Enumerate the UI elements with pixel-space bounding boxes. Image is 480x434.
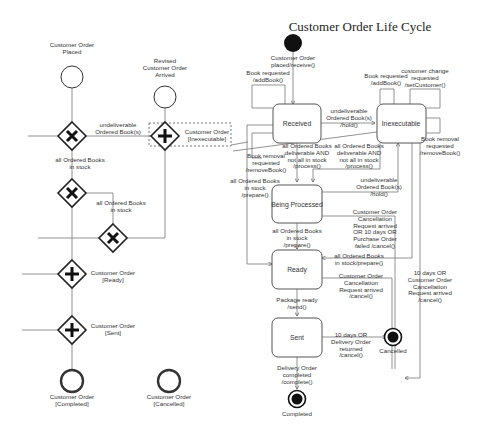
tlabel-proc-cancel: Customer OrderCancellationRequest arrive… — [353, 208, 398, 249]
transition-inexec-cancel — [405, 143, 420, 378]
state-label: Being Processed — [271, 201, 323, 209]
bpmn-process: Customer OrderPlaced RevisedCustomer Ord… — [22, 41, 248, 407]
final-label-completed: Completed — [282, 410, 312, 417]
start-event-placed[interactable] — [61, 66, 83, 88]
state-inexecutable[interactable]: Inexecutable — [377, 104, 426, 143]
state-being-processed[interactable]: Being Processed — [271, 185, 323, 223]
state-sent[interactable]: Sent — [272, 318, 322, 357]
tlabel-recv-remove: Book removalrequested/removeBook() — [246, 152, 287, 173]
label-in-stock-2: all Ordered Booksin stock — [96, 199, 146, 213]
tlabel-recv-to-inexec: undeliverableOrdered Book(s)/hold() — [326, 107, 372, 128]
tlabel-recv-addbook: Book requested/addBook() — [246, 69, 290, 83]
state-label: Inexecutable — [382, 120, 421, 127]
start-event-revised[interactable] — [154, 86, 176, 108]
label-in-stock-1: all Ordered Booksin stock — [55, 156, 105, 170]
label-placed: Customer OrderPlaced — [50, 41, 94, 55]
tlabel-inexec-addbook: Book requested/addBook() — [364, 72, 408, 86]
label-revised: RevisedCustomer OrderArrived — [143, 57, 187, 78]
tlabel-inexec-remove: Book removalrequested/removeBook() — [420, 135, 461, 156]
tlabel-sent-to-completed: Delivery Ordercompleted/complete() — [277, 364, 317, 385]
tlabel-inexec-setcust: customer changerequested/setCustomer() — [401, 67, 449, 88]
label-inexecutable: Customer Order[Inexecutable] — [185, 128, 229, 142]
label-completed: Customer Order[Completed] — [50, 393, 94, 407]
tlabel-inexec-to-proc: all Ordered Booksdeliverable ANDnot all … — [334, 142, 384, 169]
state-label: Ready — [287, 266, 307, 274]
state-received[interactable]: Received — [273, 104, 321, 143]
xor-gateway-2[interactable] — [58, 179, 86, 207]
xor-gateway-1[interactable] — [58, 122, 86, 150]
tlabel-proc-to-inexec: undeliverableOrdered Book(s)/hold() — [356, 176, 402, 197]
state-label: Received — [283, 120, 312, 127]
state-ready[interactable]: Ready — [272, 250, 322, 289]
tlabel-ready-cancel: Customer OrderCancellationRequest arrive… — [339, 272, 384, 299]
end-event-cancelled[interactable] — [158, 370, 180, 392]
tlabel-recv-to-proc: all Ordered Booksdeliverable ANDnot all … — [282, 142, 332, 169]
and-gateway-sent[interactable] — [58, 316, 86, 344]
tlabel-initial: Customer Orderplaced/receive() — [271, 54, 315, 68]
state-machine: Customer Order Life Cycle Received — [230, 19, 460, 417]
diagram-canvas: Customer OrderPlaced RevisedCustomer Ord… — [0, 0, 480, 434]
initial-state[interactable] — [284, 34, 302, 52]
flow-xor2-to-xor3 — [84, 193, 113, 226]
state-label: Sent — [290, 334, 304, 341]
final-state-completed[interactable] — [289, 391, 306, 408]
flow-and1-to-xor3 — [125, 148, 165, 238]
tlabel-proc-to-ready: all Ordered Booksin stock/prepare() — [272, 227, 322, 248]
xor-gateway-3[interactable] — [99, 224, 127, 252]
loop-inexec-remove — [426, 118, 440, 133]
tlabel-sent-cancel: 10 days ORDelivery Orderreturned/cancel(… — [331, 331, 371, 358]
and-gateway-ready[interactable] — [58, 260, 86, 288]
label-sent: Customer Order[Sent] — [91, 322, 135, 336]
tlabel-ready-to-sent: Package ready/send() — [276, 296, 318, 310]
final-state-cancelled[interactable] — [385, 329, 402, 346]
end-event-completed[interactable] — [61, 370, 83, 392]
flow-to-state-machine — [231, 142, 248, 145]
final-label-cancelled: Cancelled — [379, 347, 407, 354]
loop-inexec-addbook — [380, 89, 394, 104]
tlabel-inexec-to-ready: all Ordered Booksin stock/prepare() — [334, 252, 384, 266]
label-cancelled: Customer Order[Cancelled] — [147, 393, 191, 407]
label-undeliverable: undeliverableOrdered Book(s) — [95, 121, 141, 135]
diagram-title: Customer Order Life Cycle — [289, 19, 432, 34]
tlabel-inexec-cancel: 10 days ORCustomer OrderCancellationRequ… — [408, 269, 453, 303]
label-ready: Customer Order[Ready] — [91, 269, 135, 283]
